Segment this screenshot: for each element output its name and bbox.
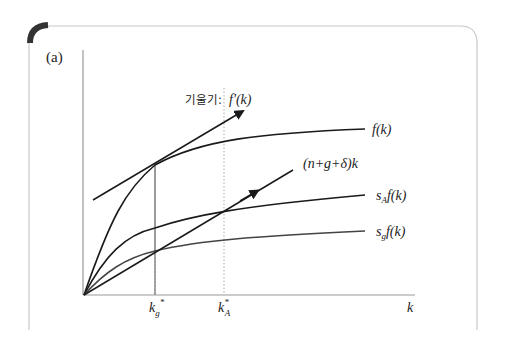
break-even-label: (n+g+δ)k: [303, 156, 359, 172]
break-even-arrowhead: [240, 191, 258, 202]
tangent-line: [93, 111, 243, 200]
savings-A-curve: [84, 195, 365, 295]
slope-label-expr: f′(k): [229, 92, 252, 108]
break-even-line: [84, 170, 293, 295]
solow-diagram: (a) 기울기: f′(k) f(k) (n+g+δ)k sAf(k) sgf(…: [0, 0, 506, 345]
panel-label: (a): [46, 49, 63, 66]
panel-frame: [29, 26, 477, 330]
production-label: f(k): [372, 122, 392, 138]
savings-A-label: sAf(k): [376, 188, 407, 205]
tick-kg-star: kg*: [149, 297, 165, 318]
corner-accent: [30, 25, 48, 43]
slope-label-prefix: 기울기:: [185, 93, 222, 107]
tick-kA-star: k*A: [218, 297, 231, 318]
x-axis-label: k: [407, 300, 414, 315]
savings-g-label: sgf(k): [376, 224, 406, 241]
